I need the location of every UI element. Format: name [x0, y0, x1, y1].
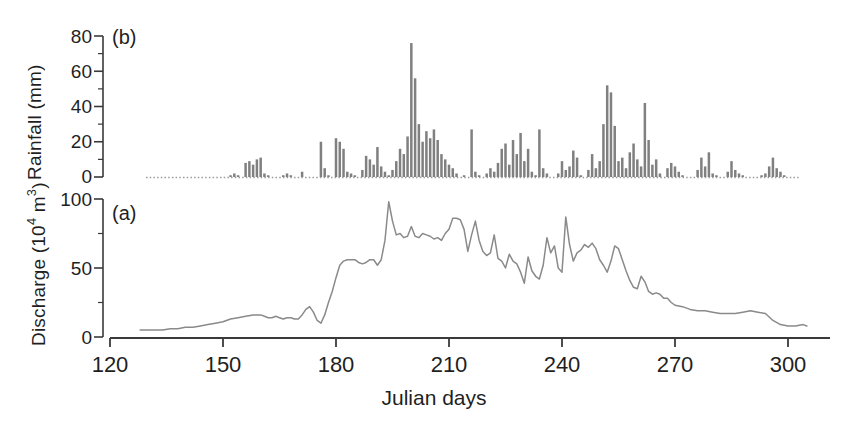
discharge-line	[140, 202, 807, 330]
figure-rainfall-discharge: Rainfall (mm) Discharge (104 m3) (b) (a)…	[0, 0, 868, 428]
rainfall-bars	[229, 43, 785, 177]
plot-canvas	[0, 0, 868, 428]
axis-rainfall	[94, 36, 800, 178]
